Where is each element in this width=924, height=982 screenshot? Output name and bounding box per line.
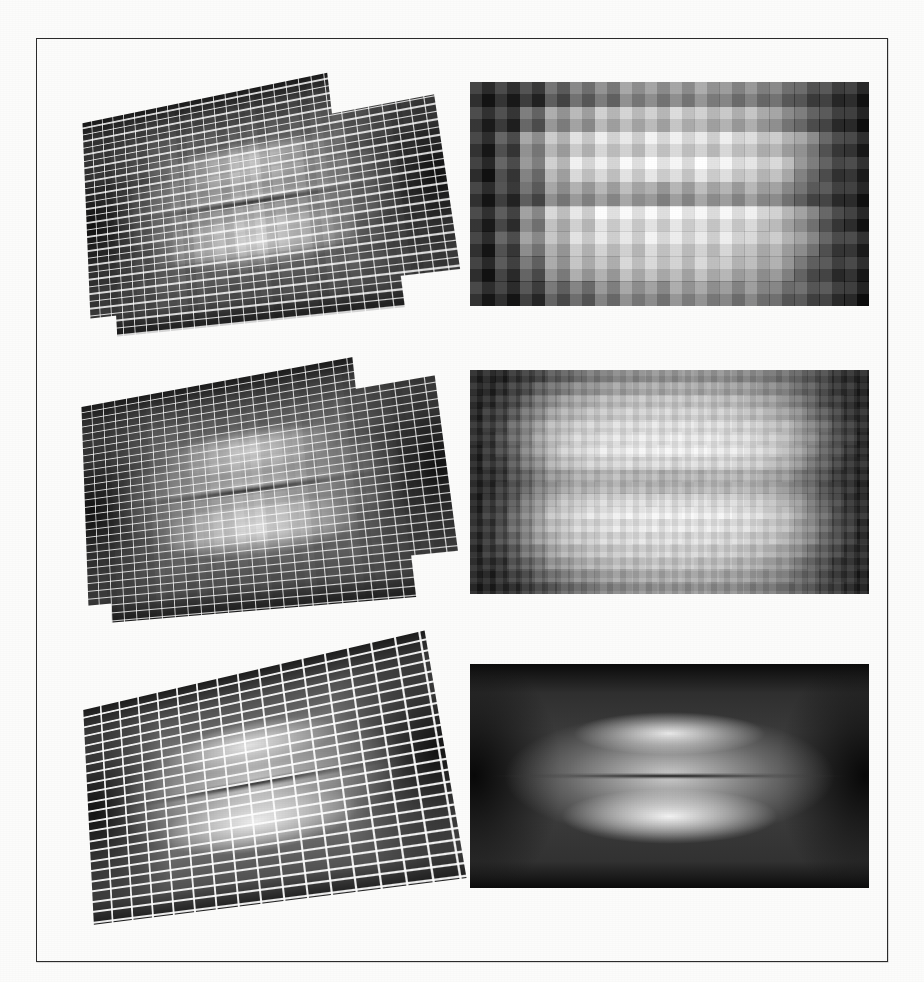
mosaic-cell bbox=[844, 157, 869, 182]
mosaic-cell bbox=[670, 182, 695, 207]
mosaic-cell bbox=[819, 432, 831, 444]
mosaic-cell bbox=[807, 432, 819, 444]
mosaic-cell bbox=[607, 519, 619, 531]
mosaic-cell bbox=[645, 544, 657, 556]
mosaic-cell bbox=[757, 582, 769, 594]
mosaic-cell bbox=[545, 582, 557, 594]
mosaic-cell bbox=[470, 519, 482, 531]
mosaic-cell bbox=[769, 582, 781, 594]
mosaic-cell bbox=[832, 494, 844, 506]
mosaic-cell bbox=[595, 256, 620, 281]
mosaic-cell bbox=[470, 82, 495, 107]
mosaic-cell bbox=[732, 482, 744, 494]
mosaic-cell bbox=[657, 544, 669, 556]
mosaic-cell bbox=[794, 370, 806, 382]
mosaic-cell bbox=[582, 494, 594, 506]
mosaic-cell bbox=[645, 206, 670, 231]
mosaic-cell bbox=[645, 370, 657, 382]
mosaic-cell bbox=[794, 420, 806, 432]
mosaic-cell bbox=[819, 82, 844, 107]
mosaic-cell bbox=[719, 482, 731, 494]
mosaic-cell bbox=[620, 557, 632, 569]
mosaic-cell bbox=[582, 519, 594, 531]
mosaic-cell bbox=[782, 445, 794, 457]
mosaic-cell bbox=[719, 370, 731, 382]
mosaic-cell bbox=[744, 407, 756, 419]
mosaic-cell bbox=[595, 569, 607, 581]
mosaic-cell bbox=[769, 432, 781, 444]
mosaic-cell bbox=[744, 281, 769, 306]
mosaic-cell bbox=[782, 582, 794, 594]
mosaic-cell bbox=[682, 432, 694, 444]
mosaic-cell bbox=[545, 407, 557, 419]
mosaic-cell bbox=[807, 519, 819, 531]
mosaic-cell bbox=[819, 182, 844, 207]
mosaic-cell bbox=[582, 395, 594, 407]
mosaic-cell bbox=[507, 382, 519, 394]
mosaic-cell bbox=[657, 407, 669, 419]
mosaic-cell bbox=[819, 107, 844, 132]
mosaic-cell bbox=[607, 395, 619, 407]
mosaic-cell bbox=[694, 482, 706, 494]
mosaic-cell bbox=[832, 370, 844, 382]
mosaic-cell bbox=[645, 420, 657, 432]
mosaic-cell bbox=[482, 557, 494, 569]
mosaic-cell bbox=[557, 507, 569, 519]
mosaic-cell bbox=[470, 157, 495, 182]
mosaic-cell bbox=[857, 544, 869, 556]
mosaic-cell bbox=[794, 231, 819, 256]
mosaic-cell bbox=[719, 132, 744, 157]
mosaic-cell bbox=[470, 382, 482, 394]
mosaic-cell bbox=[595, 206, 620, 231]
mosaic-cell bbox=[682, 407, 694, 419]
mosaic-cell bbox=[832, 407, 844, 419]
mosaic-cell bbox=[707, 482, 719, 494]
mosaic-cell bbox=[645, 82, 670, 107]
mosaic-cell bbox=[744, 569, 756, 581]
mosaic-cell bbox=[744, 420, 756, 432]
mosaic-cell bbox=[670, 445, 682, 457]
mosaic-cell bbox=[794, 470, 806, 482]
mosaic-cell bbox=[769, 557, 781, 569]
mosaic-cell bbox=[719, 507, 731, 519]
mosaic-cell bbox=[670, 281, 695, 306]
mosaic-cell bbox=[595, 557, 607, 569]
mosaic-cell bbox=[744, 470, 756, 482]
mosaic-cell bbox=[657, 482, 669, 494]
mosaic-cell bbox=[645, 182, 670, 207]
mosaic-cell bbox=[507, 569, 519, 581]
mosaic-cell bbox=[570, 182, 595, 207]
figure-grid: coarse resolution bbox=[36, 38, 888, 962]
mosaic-cell bbox=[532, 407, 544, 419]
mosaic-cell bbox=[719, 256, 744, 281]
mosaic-cell bbox=[744, 507, 756, 519]
mosaic-cell bbox=[819, 532, 831, 544]
mosaic-cell bbox=[570, 457, 582, 469]
mosaic-cell bbox=[757, 470, 769, 482]
mosaic-cell bbox=[832, 482, 844, 494]
mosaic-cell bbox=[694, 420, 706, 432]
mosaic-cell bbox=[495, 182, 520, 207]
mosaic-cell bbox=[520, 395, 532, 407]
mosaic-cell bbox=[545, 182, 570, 207]
mosaic-cell bbox=[545, 206, 570, 231]
mosaic-cell bbox=[470, 370, 482, 382]
mosaic-cell bbox=[645, 157, 670, 182]
mosaic-cell bbox=[482, 494, 494, 506]
mosaic-cell bbox=[782, 482, 794, 494]
mosaic-cell bbox=[670, 494, 682, 506]
mosaic-cell bbox=[620, 494, 632, 506]
mosaic-cell bbox=[844, 281, 869, 306]
mosaic-cell bbox=[470, 132, 495, 157]
mosaic-cell bbox=[557, 532, 569, 544]
mosaic-cell bbox=[769, 132, 794, 157]
mosaic-cell bbox=[744, 370, 756, 382]
mosaic-cell bbox=[657, 457, 669, 469]
mosaic-cell bbox=[719, 182, 744, 207]
mosaic-cell bbox=[682, 507, 694, 519]
mosaic-cell bbox=[844, 494, 856, 506]
mosaic-cell bbox=[495, 432, 507, 444]
mosaic-cell bbox=[532, 382, 544, 394]
mosaic-cell bbox=[807, 544, 819, 556]
mosaic-cell bbox=[670, 107, 695, 132]
